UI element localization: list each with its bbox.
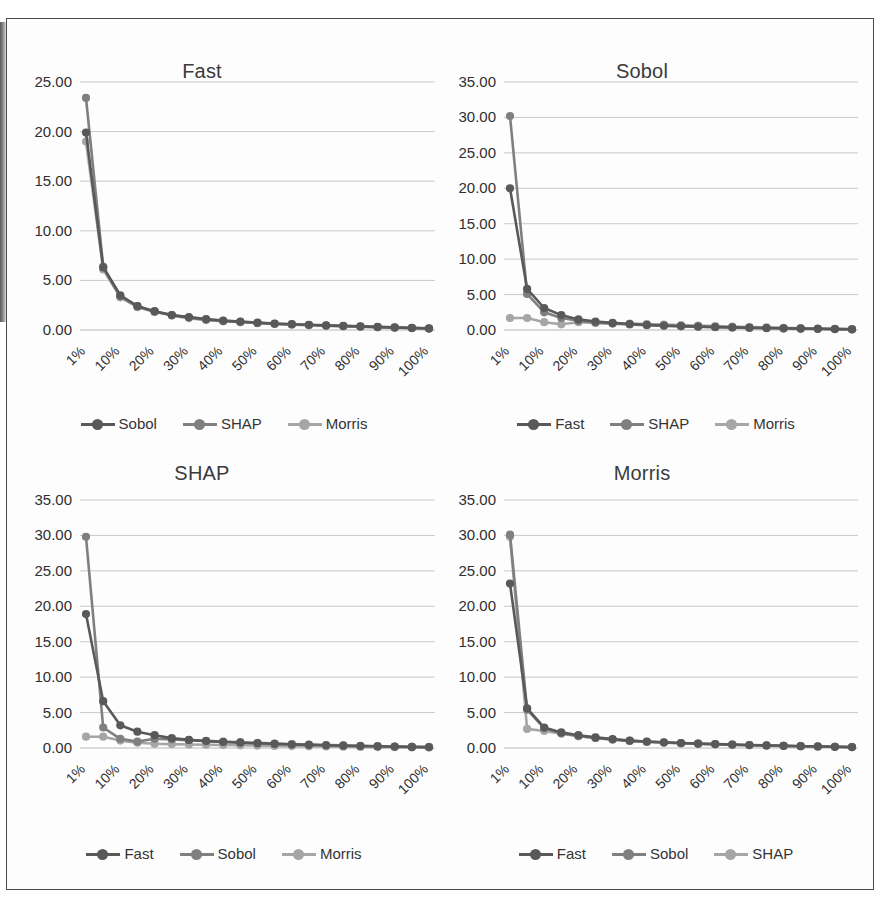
legend-item[interactable]: Morris [715,415,795,432]
series-marker [99,697,107,705]
series-marker [202,737,210,745]
legend-morris: Fast Sobol SHAP [440,845,872,862]
x-axis-tick-label: 10% [91,761,122,792]
series-marker [374,323,382,331]
series-marker [677,739,685,747]
series-marker [574,731,582,739]
series-marker [219,317,227,325]
legend-fast: Sobol SHAP Morris [8,415,440,432]
legend-item[interactable]: Morris [288,415,368,432]
series-marker [202,315,210,323]
x-axis-tick-label: 70% [720,761,751,792]
x-axis-tick-label: 30% [584,343,615,374]
x-axis-tick-label: 50% [228,761,259,792]
plot-area-fast: 0.005.0010.0015.0020.0025.001%10%20%30%4… [8,20,440,454]
series-marker [339,742,347,750]
series-marker [609,735,617,743]
x-axis-tick-label: 100% [394,343,431,380]
chart-panel-morris: Morris 0.005.0010.0015.0020.0025.0030.00… [440,454,872,888]
y-axis-tick-label: 35.00 [34,491,72,508]
series-marker [253,319,261,327]
series-marker [848,325,856,333]
series-marker [99,263,107,271]
series-marker [425,324,433,332]
series-marker [523,314,531,322]
y-axis-tick-label: 15.00 [458,633,496,650]
x-axis-tick-label: 90% [789,343,820,374]
series-marker [374,742,382,750]
y-axis-tick-label: 15.00 [34,633,72,650]
series-marker [236,318,244,326]
x-axis-tick-label: 50% [652,343,683,374]
series-marker [660,322,668,330]
series-marker [151,307,159,315]
series-marker [253,739,261,747]
legend-line-marker-icon [714,848,748,860]
legend-line-marker-icon [86,848,120,860]
series-marker [219,738,227,746]
series-marker [762,324,770,332]
series-marker [591,733,599,741]
series-marker [745,741,753,749]
y-axis-tick-label: 25.00 [34,73,72,90]
series-marker [305,741,313,749]
series-marker [185,313,193,321]
series-marker [506,314,514,322]
legend-label: Fast [554,415,584,432]
x-axis-tick-label: 80% [755,343,786,374]
legend-item[interactable]: Sobol [180,845,256,862]
legend-line-marker-icon [180,848,214,860]
legend-label: Morris [325,415,368,432]
x-axis-tick-label: 90% [789,761,820,792]
series-marker [82,533,90,541]
legend-item[interactable]: Sobol [612,845,688,862]
series-marker [99,723,107,731]
y-axis-tick-label: 5.00 [467,286,496,303]
series-line [86,614,429,747]
plot-svg-shap: 0.005.0010.0015.0020.0025.0030.0035.001%… [8,454,440,888]
chart-grid: Fast 0.005.0010.0015.0020.0025.001%10%20… [8,20,872,888]
series-marker [271,740,279,748]
series-marker [506,580,514,588]
series-marker [305,321,313,329]
series-marker [133,728,141,736]
legend-item[interactable]: Fast [86,845,153,862]
x-axis-tick-label: 60% [263,761,294,792]
legend-item[interactable]: SHAP [183,415,262,432]
series-marker [116,291,124,299]
y-axis-tick-label: 30.00 [34,526,72,543]
series-marker [506,184,514,192]
series-marker [425,743,433,751]
x-axis-tick-label: 30% [584,761,615,792]
x-axis-tick-label: 40% [194,343,225,374]
series-marker [236,739,244,747]
series-marker [540,723,548,731]
legend-label: Morris [319,845,362,862]
series-marker [523,725,531,733]
series-marker [391,323,399,331]
y-axis-tick-label: 5.00 [467,704,496,721]
legend-label: SHAP [220,415,262,432]
y-axis-tick-label: 10.00 [34,668,72,685]
series-marker [506,531,514,539]
series-marker [82,610,90,618]
series-marker [694,323,702,331]
legend-sobol: Fast SHAP Morris [440,415,872,432]
legend-label: SHAP [647,415,689,432]
series-marker [168,734,176,742]
series-line [86,98,429,329]
series-marker [168,311,176,319]
series-marker [356,322,364,330]
series-marker [643,321,651,329]
legend-item[interactable]: Sobol [81,415,157,432]
x-axis-tick-label: 80% [331,761,362,792]
legend-item[interactable]: SHAP [610,415,689,432]
legend-item[interactable]: Fast [519,845,586,862]
series-marker [185,736,193,744]
x-axis-tick-label: 20% [126,343,157,374]
legend-line-marker-icon [282,848,316,860]
legend-item[interactable]: SHAP [714,845,793,862]
legend-item[interactable]: Morris [282,845,362,862]
legend-item[interactable]: Fast [517,415,584,432]
series-marker [711,740,719,748]
